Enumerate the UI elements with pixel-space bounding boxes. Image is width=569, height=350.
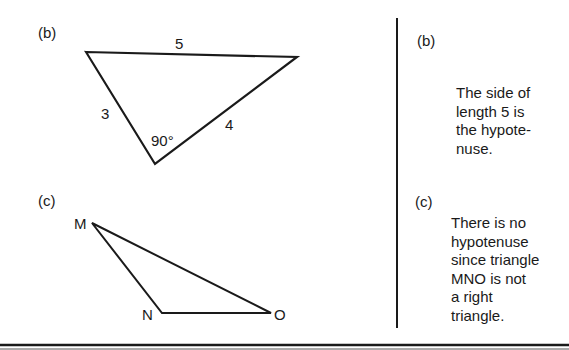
answer-b-text: The side of length 5 is the hypote- nuse… [456,84,531,158]
answer-c-label: (c) [415,194,433,209]
vertex-m-label: M [74,216,87,231]
answer-b-label: (b) [417,33,435,48]
side-length-3: 3 [101,106,109,121]
vertex-o-label: O [274,307,286,322]
side-length-5: 5 [175,36,183,51]
answer-c-text: There is no hypotenuse since triangle MN… [451,214,539,325]
part-b-label: (b) [38,25,56,40]
right-triangle-b [86,52,297,164]
triangle-mno [92,223,271,313]
side-length-4: 4 [225,117,233,132]
vertex-n-label: N [142,307,153,322]
right-angle-label: 90° [151,133,174,148]
part-c-label: (c) [38,193,56,208]
